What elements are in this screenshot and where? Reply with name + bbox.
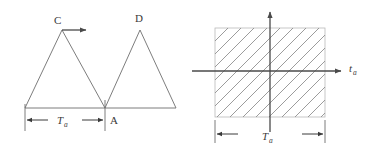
label-c: C [54, 14, 61, 26]
width-label-ta-subscript: a [269, 136, 273, 145]
width-label-ta: T [262, 130, 269, 142]
triangle-d [105, 30, 176, 108]
dimension-label-ta: T [57, 114, 64, 126]
label-a: A [110, 114, 118, 126]
dimension-label-ta-subscript: a [64, 120, 68, 129]
x-axis-label-subscript: a [353, 68, 357, 77]
technical-figure: C D T a A [0, 0, 367, 155]
triangular-waveform-panel: C D T a A [25, 12, 176, 131]
hatched-square-axes-panel: t a T a [192, 12, 357, 145]
label-d: D [135, 12, 143, 24]
triangle-c [25, 30, 105, 108]
